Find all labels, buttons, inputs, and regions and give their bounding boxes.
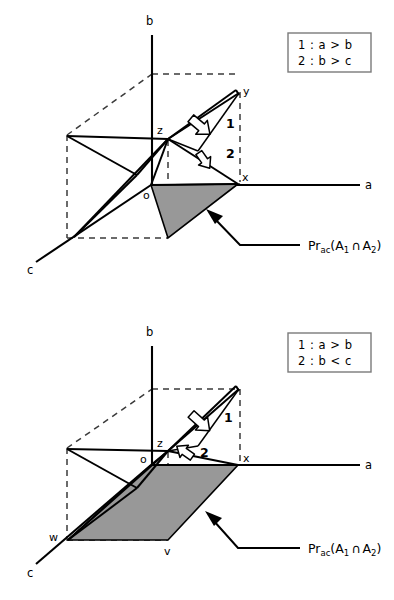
axis-label-a: a (365, 178, 372, 192)
diagram-panel-top: y z x o b a c 1 2 1:a > b 2:b > c Prac(A… (0, 0, 394, 300)
figure-root: y z x o b a c 1 2 1:a > b 2:b > c Prac(A… (0, 0, 394, 600)
axis-c-line (36, 185, 151, 262)
callout-arrowhead-top (206, 209, 223, 224)
callout-bottom: Prac(A1∩A2) (205, 511, 381, 558)
axis-label-c: c (27, 263, 33, 277)
axis-label-b: b (146, 14, 153, 28)
callout-top: Prac(A1∩A2) (206, 209, 381, 255)
vertex-label-z: z (157, 124, 163, 137)
vertex-label-o: o (143, 189, 150, 202)
axis-label-c: c (27, 566, 33, 580)
legend-top: 1:a > b 2:b > c (288, 33, 371, 72)
marker-2-label-top: 2 (226, 146, 235, 161)
callout-label-bottom: Prac(A1∩A2) (308, 541, 381, 558)
vertex-label-o: o (140, 453, 147, 466)
callout-arrowhead-bottom (205, 511, 222, 526)
vertex-label-x: x (242, 171, 249, 184)
legend-bottom: 1:a > b 2:b < c (288, 333, 371, 372)
vertex-label-w: w (49, 531, 58, 544)
marker-1-label-bottom: 1 (224, 410, 233, 425)
vertex-label-x: x (243, 452, 250, 465)
marker-2-label-bottom: 2 (200, 445, 209, 460)
callout-leader-line-bottom (213, 520, 300, 548)
diagram-panel-bottom: z x o w v b a c 1 2 1:a > b 2:b < c Prac… (0, 300, 394, 600)
marker-1-label-top: 1 (226, 116, 235, 131)
callout-label-top: Prac(A1∩A2) (308, 238, 381, 255)
marker-2-arrow-icon-top (193, 148, 216, 172)
axis-label-a: a (365, 458, 372, 472)
vertex-label-y: y (243, 85, 250, 98)
axis-label-b: b (146, 325, 153, 339)
vertex-label-z: z (157, 437, 163, 450)
vertex-label-v: v (164, 545, 171, 558)
shaded-projection-region-bottom (68, 465, 238, 540)
callout-leader-line-top (214, 218, 300, 245)
